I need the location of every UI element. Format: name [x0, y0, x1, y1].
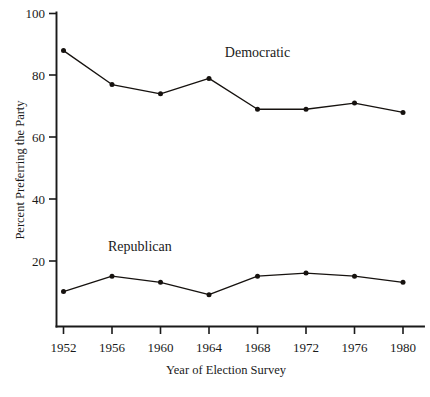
data-point [255, 274, 260, 279]
data-point [352, 274, 357, 279]
data-point [401, 110, 406, 115]
data-point [110, 274, 115, 279]
data-point [304, 271, 309, 276]
data-series-layer [61, 48, 406, 297]
line-chart-canvas: 100 80 60 40 20 1952 1956 1960 1964 1968… [0, 0, 430, 397]
x-axis-ticks [64, 327, 404, 335]
data-point [304, 107, 309, 112]
x-tick-label: 1952 [51, 340, 77, 355]
data-point [61, 289, 66, 294]
data-point [158, 91, 163, 96]
y-axis-title: Percent Preferring the Party [13, 100, 27, 240]
y-tick-label: 60 [32, 130, 45, 145]
data-point [255, 107, 260, 112]
data-point [207, 76, 212, 81]
data-point [110, 82, 115, 87]
y-tick-label: 20 [32, 254, 45, 269]
data-point [61, 48, 66, 53]
data-point [207, 292, 212, 297]
data-point [352, 101, 357, 106]
x-tick-label: 1980 [390, 340, 416, 355]
x-tick-label: 1972 [293, 340, 319, 355]
x-axis-title: Year of Election Survey [166, 363, 287, 377]
chart-figure: 100 80 60 40 20 1952 1956 1960 1964 1968… [0, 0, 430, 397]
data-point [401, 280, 406, 285]
x-tick-label: 1968 [245, 340, 271, 355]
y-axis-tick-labels: 100 80 60 40 20 [26, 6, 46, 269]
x-tick-label: 1976 [342, 340, 369, 355]
x-axis-tick-labels: 1952 1956 1960 1964 1968 1972 1976 1980 [51, 340, 417, 355]
series-label-democratic: Democratic [225, 45, 290, 60]
y-tick-label: 80 [32, 68, 45, 83]
series-label-republican: Republican [108, 239, 172, 254]
x-tick-label: 1956 [99, 340, 126, 355]
x-tick-label: 1964 [196, 340, 223, 355]
data-point [158, 280, 163, 285]
y-tick-label: 100 [26, 6, 46, 21]
y-axis-ticks [49, 14, 57, 262]
y-tick-label: 40 [32, 192, 45, 207]
x-tick-label: 1960 [148, 340, 174, 355]
